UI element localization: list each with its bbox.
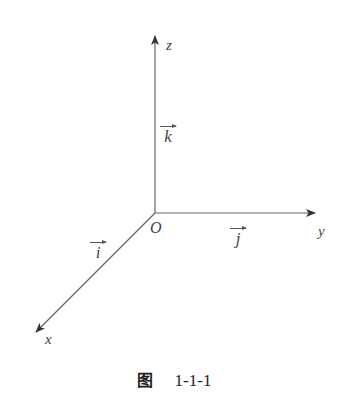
x-axis-label: x (45, 332, 52, 347)
unit-vector-i-symbol: i (96, 243, 101, 262)
unit-vector-j-symbol: j (236, 229, 241, 248)
caption-prefix: 图 (137, 371, 153, 390)
y-axis-label: y (318, 224, 325, 239)
z-axis-label: z (166, 38, 172, 53)
caption-number: 1-1-1 (175, 371, 212, 390)
unit-vector-k: k (160, 126, 176, 145)
unit-vector-j: j (230, 228, 246, 247)
origin-label: O (150, 220, 162, 236)
unit-vector-i: i (90, 242, 106, 261)
coordinate-axes-diagram (0, 0, 348, 412)
vector-arrow-icon (230, 228, 246, 229)
unit-vector-k-symbol: k (164, 127, 172, 146)
vector-arrow-icon (160, 126, 176, 127)
figure-caption: 图1-1-1 (0, 367, 348, 391)
x-axis (36, 213, 155, 332)
vector-arrow-icon (90, 242, 106, 243)
